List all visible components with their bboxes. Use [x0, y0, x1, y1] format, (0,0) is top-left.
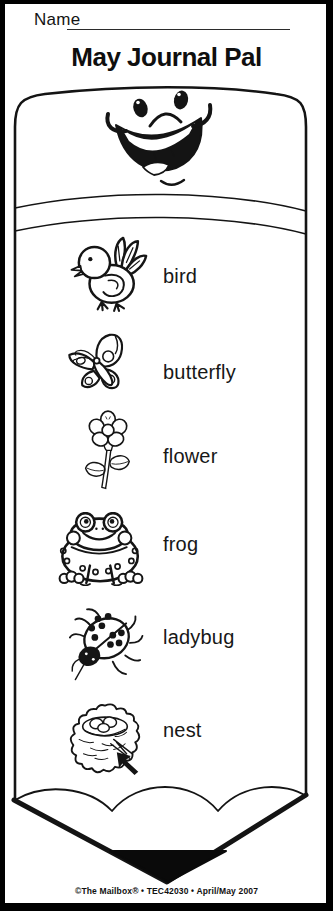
- item-label: bird: [163, 265, 197, 288]
- ladybug-icon: [66, 606, 144, 690]
- up-left-arrow-icon: [114, 749, 142, 776]
- item-label: frog: [163, 533, 198, 556]
- smiley-face-icon: [107, 89, 210, 185]
- scanned-worksheet-page: Name May Journal Pal: [0, 0, 333, 911]
- footer-credit: ©The Mailbox® • TEC42030 • April/May 200…: [0, 886, 333, 896]
- item-label: flower: [163, 445, 218, 468]
- bird-icon: [66, 233, 154, 315]
- butterfly-icon: [62, 332, 140, 404]
- frog-icon: [55, 512, 147, 586]
- flower-icon: [80, 410, 136, 498]
- item-label: nest: [163, 719, 202, 742]
- item-label: butterfly: [163, 361, 236, 384]
- item-label: ladybug: [163, 626, 234, 649]
